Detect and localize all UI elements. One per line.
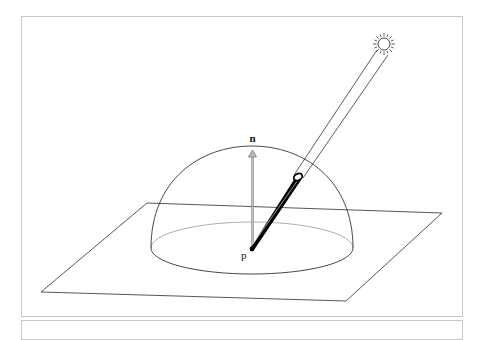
light-beam <box>294 50 388 178</box>
point-p-marker <box>250 247 255 252</box>
sun-icon <box>373 33 395 55</box>
normal-label: n <box>250 132 256 144</box>
normal-vector-arrow <box>249 150 257 249</box>
incident-ray <box>250 172 303 250</box>
point-label: p <box>241 249 247 261</box>
